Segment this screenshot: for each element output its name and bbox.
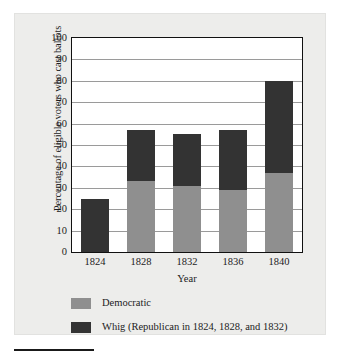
- y-tick-label: 30: [57, 183, 68, 194]
- y-tick-label: 10: [57, 225, 68, 236]
- bar-segment: [265, 81, 293, 173]
- x-axis-title: Year: [71, 273, 303, 284]
- bar-segment: [219, 130, 247, 190]
- y-tick-label: 80: [57, 76, 68, 87]
- bar-segment: [81, 199, 109, 253]
- chart-legend: Democratic Whig (Republican in 1824, 182…: [71, 297, 321, 345]
- x-tick-label: 1836: [210, 257, 256, 268]
- legend-swatch-whig: [71, 322, 91, 333]
- plot-area: 0102030405060708090100 18241828183218361…: [71, 37, 303, 253]
- x-tick-label: 1840: [256, 257, 302, 268]
- bar-series-layer: [72, 38, 302, 252]
- bar-segment: [265, 173, 293, 252]
- y-tick-label: 0: [62, 247, 67, 258]
- bar-group: [81, 199, 109, 253]
- figure-panel: Percentage of eligible voters who cast b…: [14, 13, 326, 335]
- bar-group: [127, 130, 155, 252]
- y-tick-label: 90: [57, 54, 68, 65]
- y-tick-label: 20: [57, 204, 68, 215]
- bar-segment: [127, 181, 155, 252]
- bar-group: [219, 130, 247, 252]
- y-tick-label: 40: [57, 161, 68, 172]
- y-tick-label: 50: [57, 140, 68, 151]
- y-tick-label: 60: [57, 118, 68, 129]
- y-tick-label: 70: [57, 97, 68, 108]
- bar-segment: [219, 190, 247, 252]
- legend-label-democratic: Democratic: [102, 298, 151, 309]
- x-tick-label: 1828: [118, 257, 164, 268]
- y-tick-label: 100: [51, 33, 67, 44]
- bar-segment: [173, 186, 201, 252]
- footer-rule: [14, 349, 94, 351]
- legend-item-whig: Whig (Republican in 1824, 1828, and 1832…: [71, 321, 321, 333]
- bar-group: [173, 134, 201, 252]
- bar-segment: [127, 130, 155, 181]
- legend-swatch-democratic: [71, 298, 91, 309]
- legend-item-democratic: Democratic: [71, 297, 321, 309]
- legend-label-whig: Whig (Republican in 1824, 1828, and 1832…: [102, 322, 287, 333]
- x-tick-label: 1824: [72, 257, 118, 268]
- bar-group: [265, 81, 293, 252]
- bar-segment: [173, 134, 201, 185]
- x-tick-label: 1832: [164, 257, 210, 268]
